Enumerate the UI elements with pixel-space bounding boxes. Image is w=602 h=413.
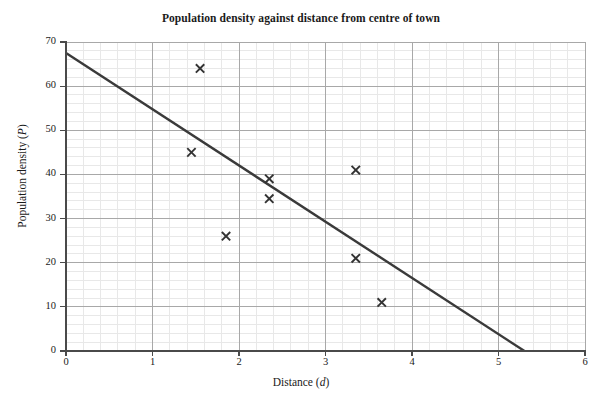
plot-area [66,42,585,351]
y-axis-tick [60,218,65,219]
data-point-marker [352,166,360,174]
trend-line [66,53,524,351]
y-axis-title: Population density (P) [16,76,28,276]
x-axis-tick-label: 5 [487,356,511,367]
x-axis-tick-label: 2 [227,356,251,367]
y-axis-tick-label: 30 [28,212,56,223]
y-axis-tick-label: 60 [28,79,56,90]
x-axis-tick-label: 0 [54,356,78,367]
x-axis-tick-label: 1 [141,356,165,367]
axis-title-text: Distance ( [273,376,320,388]
axis-title-paren: ) [16,124,28,128]
y-axis-line [65,41,67,352]
x-axis-tick-label: 4 [400,356,424,367]
y-axis-tick-label: 40 [28,167,56,178]
x-axis-title: Distance (d) [0,376,602,388]
chart-title: Population density against distance from… [0,12,602,24]
y-axis-tick [60,130,65,131]
axis-title-text: Population density ( [16,135,28,228]
y-axis-tick [60,41,65,42]
y-axis-tick-label: 10 [28,300,56,311]
chart-figure: Population density against distance from… [0,0,602,413]
axis-title-paren: ) [325,376,329,388]
data-point-marker [265,175,273,183]
y-axis-tick-label: 20 [28,256,56,267]
y-axis-tick [60,306,65,307]
y-axis-tick [60,86,65,87]
chart-data-layer [66,42,585,351]
data-point-marker [378,298,386,306]
data-point-marker [187,148,195,156]
x-axis-tick-label: 6 [573,356,597,367]
y-axis-tick [60,174,65,175]
y-axis-tick [60,350,65,351]
data-point-marker [265,195,273,203]
x-axis-tick-label: 3 [314,356,338,367]
data-point-marker [222,232,230,240]
y-axis-tick [60,262,65,263]
data-point-marker [352,254,360,262]
y-axis-tick-label: 70 [28,35,56,46]
axis-title-variable: P [16,128,28,135]
y-axis-tick-label: 50 [28,123,56,134]
data-point-marker [196,64,204,72]
y-axis-tick-label: 0 [28,344,56,355]
